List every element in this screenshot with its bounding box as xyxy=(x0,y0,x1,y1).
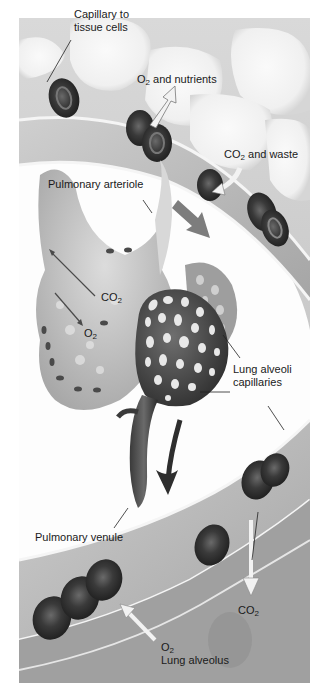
label-pulmonary-arteriole: Pulmonary arteriole xyxy=(48,178,143,191)
gas-exchange-diagram: Capillary to tissue cells O2 and nutrien… xyxy=(0,0,329,696)
label-pulmonary-venule: Pulmonary venule xyxy=(35,531,123,544)
label-capillary-to-tissue: Capillary to tissue cells xyxy=(74,8,129,34)
illustration-frame xyxy=(19,18,310,684)
label-lung-alveoli-capillaries: Lung alveoli capillaries xyxy=(233,363,292,389)
label-o2-bottom: O2 xyxy=(161,641,174,654)
illustration xyxy=(0,0,329,696)
label-o2-left: O2 xyxy=(84,327,97,340)
label-co2-waste: CO2 and waste xyxy=(224,148,298,161)
label-co2-bottom: CO2 xyxy=(238,604,259,617)
label-o2-nutrients: O2 and nutrients xyxy=(137,73,217,86)
label-lung-alveolus: Lung alveolus xyxy=(161,654,229,667)
label-co2-left: CO2 xyxy=(101,291,122,304)
